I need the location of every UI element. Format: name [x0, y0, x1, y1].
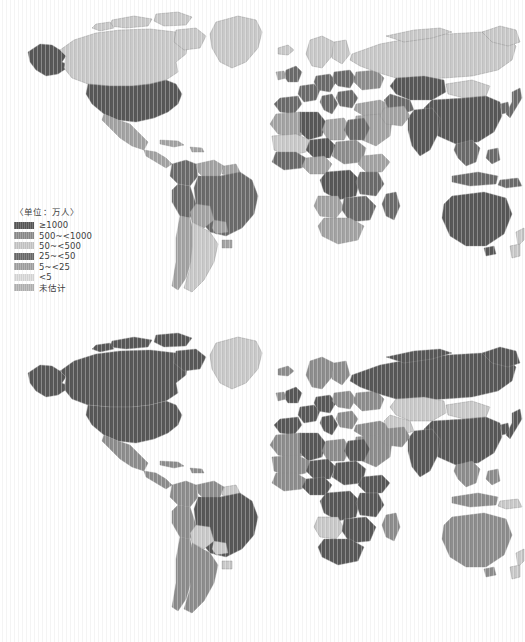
region-madagascar [382, 192, 400, 220]
region-angola [314, 196, 344, 218]
region-italy [320, 415, 338, 435]
region-algeria [300, 433, 326, 461]
region-canada-arctic-1 [110, 16, 152, 28]
legend-row: <5 [14, 272, 92, 282]
region-south-africa [318, 539, 364, 565]
region-guinea-coast [272, 152, 306, 170]
map-panel-population: 〈单位：万人〉 ≥1000 500~<1000 50~<500 25~<50 5… [0, 0, 525, 321]
region-iberia [274, 96, 302, 114]
region-scandinavia [306, 36, 334, 68]
legend-row: 未估计 [14, 282, 92, 292]
legend-label: <5 [39, 272, 52, 282]
region-tasmania [484, 246, 496, 256]
region-png [498, 499, 522, 509]
region-greenland [210, 16, 262, 68]
region-uruguay [222, 561, 232, 569]
legend-label: 500~<1000 [39, 231, 92, 241]
region-colombia [170, 160, 198, 186]
region-ireland [276, 71, 286, 80]
region-iceland [278, 366, 294, 376]
region-finland [332, 361, 350, 385]
legend-label: 未估计 [39, 283, 66, 293]
legend-swatch [14, 284, 34, 291]
region-niger [306, 459, 336, 479]
legend-label: 50~<500 [39, 241, 81, 251]
region-poland [332, 70, 356, 88]
region-greenland [210, 337, 262, 389]
region-paraguay [212, 541, 228, 555]
region-drc [320, 491, 360, 521]
region-tasmania [484, 567, 496, 577]
region-finland [332, 40, 350, 64]
region-central-america [144, 150, 172, 168]
region-madagascar [382, 513, 400, 541]
region-indonesia [452, 493, 498, 507]
region-italy [320, 94, 338, 114]
region-cuba [160, 461, 184, 468]
legend-swatch [14, 253, 34, 260]
legend-row: ≥1000 [14, 220, 92, 230]
region-canada-arctic-2 [154, 333, 192, 347]
region-indonesia [452, 172, 498, 186]
legend-row: 5~<25 [14, 262, 92, 272]
region-canada [60, 350, 188, 407]
map-stage-bottom [0, 321, 525, 642]
region-nigeria [302, 477, 332, 495]
legend-label: 25~<50 [39, 251, 75, 261]
region-hispaniola [190, 468, 204, 473]
legend-population: 〈单位：万人〉 ≥1000 500~<1000 50~<500 25~<50 5… [14, 207, 92, 293]
region-mongolia [446, 80, 490, 98]
region-india [408, 429, 440, 477]
region-canada [60, 29, 188, 86]
region-kenya-tanzania [356, 493, 384, 517]
legend-swatch [14, 242, 34, 249]
legend-title-population: 〈单位：万人〉 [15, 207, 92, 218]
region-canada-arctic-2 [154, 12, 192, 26]
region-indochina [454, 461, 480, 487]
region-ethiopia [358, 475, 390, 493]
region-png [498, 178, 522, 188]
region-united-states [86, 401, 182, 443]
region-ireland [276, 392, 286, 401]
region-india [408, 108, 440, 156]
region-uruguay [222, 240, 232, 248]
region-ethiopia [358, 154, 390, 172]
region-canada-arctic-1 [110, 337, 152, 349]
region-south-africa [318, 218, 364, 244]
region-balkans [336, 411, 358, 429]
region-new-zealand [516, 228, 524, 246]
region-poland [332, 391, 356, 409]
region-venezuela [196, 160, 224, 178]
region-paraguay [212, 220, 228, 234]
region-scandinavia [306, 357, 334, 389]
legend-label: 5~<25 [39, 262, 70, 272]
region-kenya-tanzania [356, 172, 384, 196]
map-panel-value: 〈单位：亿美元〉 ≥100 10~<100 2~<10 0.5~ <2 0.1~… [0, 321, 525, 642]
world-map-value-svg [0, 321, 525, 642]
legend-row: 50~<500 [14, 241, 92, 251]
region-australia [442, 513, 512, 567]
legend-swatch [14, 222, 34, 229]
region-niger [306, 138, 336, 158]
legend-swatch [14, 232, 34, 239]
region-hispaniola [190, 147, 204, 152]
region-philippines [486, 148, 500, 164]
region-mongolia [446, 401, 490, 419]
region-drc [320, 170, 360, 200]
legend-row: 25~<50 [14, 251, 92, 261]
region-cuba [160, 140, 184, 147]
region-united-states [86, 80, 182, 122]
region-canada-arctic-3 [92, 22, 114, 31]
legend-label: ≥1000 [39, 220, 68, 230]
region-new-zealand-south [510, 244, 520, 258]
region-uk [284, 66, 302, 82]
region-philippines [486, 469, 500, 485]
legend-swatch [14, 274, 34, 281]
region-guinea-coast [272, 473, 306, 491]
region-iberia [274, 417, 302, 435]
region-new-zealand [516, 549, 524, 567]
legend-row: 500~<1000 [14, 230, 92, 240]
region-algeria [300, 112, 326, 140]
region-balkans [336, 90, 358, 108]
region-new-zealand-south [510, 565, 520, 579]
